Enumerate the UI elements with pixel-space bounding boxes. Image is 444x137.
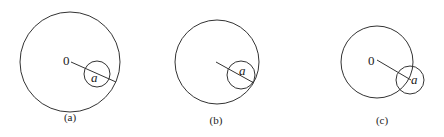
large-circle [20,12,120,112]
panel-caption: (a) [64,111,77,124]
radius-line [216,62,254,83]
panel-caption: (b) [210,114,223,127]
small-circle [396,66,424,94]
small-circle-label: a [411,72,418,87]
panel-caption: (c) [376,114,389,127]
panel-b: a (b) [175,20,259,127]
panel-c: 0 a (c) [341,26,424,127]
center-label: 0 [63,53,70,68]
panel-a: 0 a (a) [20,12,120,124]
circles-diagram: 0 a (a) a (b) 0 a (c) [0,0,444,137]
center-label: 0 [368,53,375,68]
large-circle [341,26,413,98]
small-circle-label: a [239,63,246,78]
small-circle-label: a [91,70,98,85]
radius-line [377,60,411,80]
